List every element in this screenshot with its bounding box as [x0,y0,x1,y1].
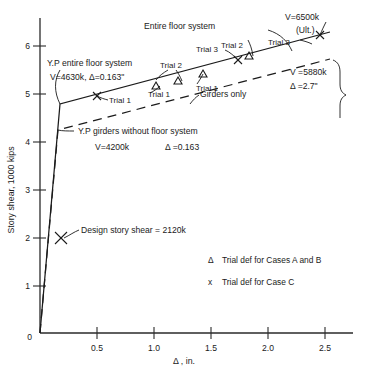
marker-design-story-shear [55,232,67,244]
legend-symbol-triangle: Δ [208,255,214,265]
label-trial-1-dashed: Trial 1 [148,90,170,99]
leader-trial3-right [300,40,312,44]
label-entire-floor-system: Entire floor system [144,21,215,31]
label-yp-girders-d: Δ =0.163 [165,142,199,152]
leader-yp-girders [58,130,74,131]
label-trial-2-left: Trial 2 [160,61,182,70]
y-tick-labels: 6 5 4 3 2 1 0 [25,41,32,342]
leader-trial2-left [156,70,168,80]
label-design-shear: Design story shear = 2120k [81,225,187,235]
x-tick-1.5: 1.5 [205,343,217,353]
label-yp-girders-v: V=4200k [95,142,130,152]
x-tick-labels: 0.5 1.0 1.5 2.0 2.5 [91,343,331,353]
label-yp-girders-1: Y.P girders without floor system [78,126,198,136]
marker-trial-1-solid-tri [199,70,207,77]
legend-text-case-c: Trial def for Case C [222,277,294,287]
label-yp-entire-2: V=4630k, Δ=0.163" [50,72,124,82]
label-trial-1-x: Trial 1 [109,96,131,105]
label-gird-v: V =5880k [290,67,327,77]
label-trial-2-mid: Trial 2 [221,41,243,50]
series-girders-only [40,59,330,333]
chart-svg: 6 5 4 3 2 1 0 0.5 1.0 1.5 2.0 2.5 Δ , in… [0,0,367,367]
leader-girders-only [190,95,199,104]
label-ult-v: V=6500k [285,12,320,22]
label-ult-paren: (Ult.) [296,25,315,35]
legend-text-cases-ab: Trial def for Cases A and B [222,255,322,265]
y-tick-3: 3 [25,185,30,195]
label-yp-entire-1: Y.P entire floor system [47,58,132,68]
y-tick-4: 4 [25,137,30,147]
figure-container: 6 5 4 3 2 1 0 0.5 1.0 1.5 2.0 2.5 Δ , in… [0,0,367,367]
leader-design-shear [64,230,79,238]
x-axis-label: Δ , in. [173,356,195,366]
y-tick-2: 2 [25,233,30,243]
legend-symbol-x: x [208,277,213,287]
label-trial-3-right: Trial 3 [268,38,290,47]
y-tick-1: 1 [25,281,30,291]
y-tick-6: 6 [25,41,30,51]
x-tick-1.0: 1.0 [148,343,160,353]
x-tick-0.5: 0.5 [91,343,103,353]
label-trial-1-solid: Trial 1 [196,84,218,93]
y-axis-label: Story shear, 1000 kips [6,146,16,234]
y-tick-5: 5 [25,89,30,99]
marker-trial-1-dashed-tri [152,82,160,89]
legend: Δ Trial def for Cases A and B x Trial de… [208,255,322,287]
y-tick-0: 0 [27,332,32,342]
x-tick-2.5: 2.5 [319,343,331,353]
x-tick-2.0: 2.0 [262,343,274,353]
label-gird-d: Δ =2.7" [290,81,318,91]
label-trial-3-mid: Trial 3 [196,45,218,54]
